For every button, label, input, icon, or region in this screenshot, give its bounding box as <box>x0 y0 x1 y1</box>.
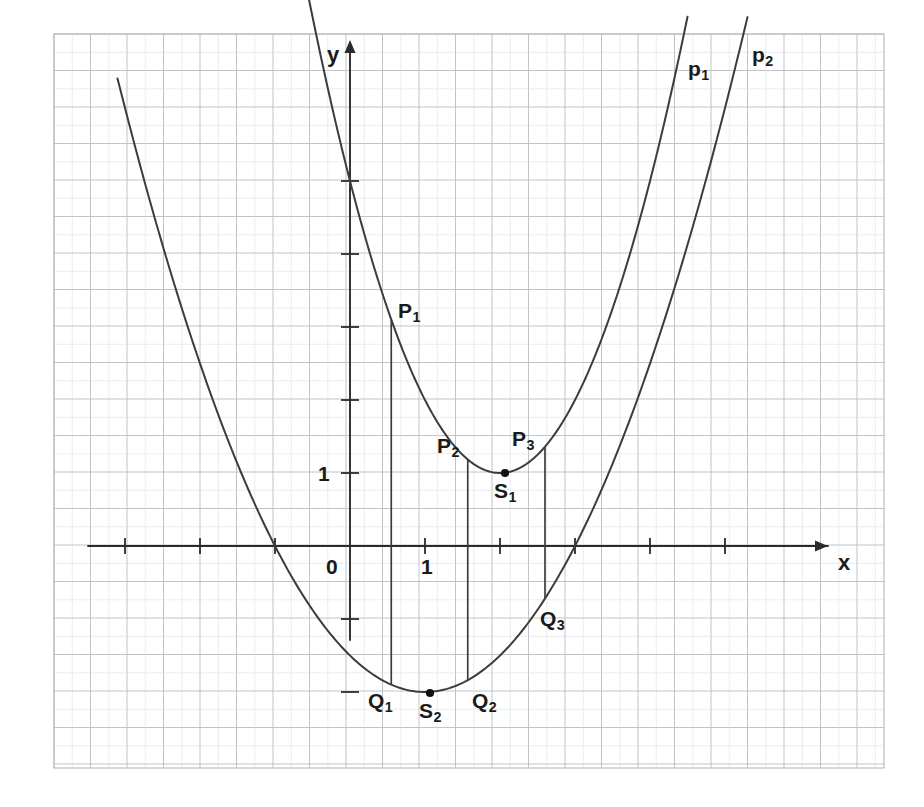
point-label-S2: S2 <box>419 700 441 724</box>
point-label-subscript: 3 <box>526 437 534 453</box>
vertex-dot-S2 <box>426 689 434 697</box>
origin-tick-label: 0 <box>326 556 338 577</box>
point-label-base: Q <box>368 689 384 712</box>
point-label-base: Q <box>540 607 556 630</box>
parabola-plot <box>0 0 924 807</box>
curve-label-base: p <box>752 43 765 66</box>
point-label-subscript: 1 <box>508 489 516 505</box>
point-label-base: Q <box>472 689 488 712</box>
point-label-subscript: 3 <box>556 617 564 633</box>
curves-layer <box>118 0 748 692</box>
y-tick-label-1: 1 <box>318 463 330 484</box>
point-label-subscript: 1 <box>384 699 392 715</box>
curve-label-subscript: 1 <box>701 67 709 83</box>
curve-label-p1: p1 <box>688 58 709 82</box>
curve-label-p2: p2 <box>752 44 773 68</box>
point-label-subscript: 2 <box>433 709 441 725</box>
point-label-subscript: 2 <box>451 444 459 460</box>
figure-canvas: y x 0 1 1 p1p2P1P2P3S1Q1Q2S2Q3 <box>0 0 924 807</box>
point-label-Q3: Q3 <box>540 608 565 632</box>
x-axis-label: x <box>838 552 850 574</box>
point-label-base: P <box>437 434 451 457</box>
point-label-base: S <box>419 699 433 722</box>
point-label-subscript: 1 <box>412 309 420 325</box>
y-axis-label: y <box>327 44 339 66</box>
vertex-dot-S1 <box>501 469 509 477</box>
point-label-base: P <box>512 427 526 450</box>
point-label-subscript: 2 <box>488 699 496 715</box>
point-label-Q2: Q2 <box>472 690 497 714</box>
point-label-P3: P3 <box>512 428 534 452</box>
curve-label-base: p <box>688 57 701 80</box>
curve-label-subscript: 2 <box>765 53 773 69</box>
curve-p2 <box>118 17 748 692</box>
point-label-P2: P2 <box>437 435 459 459</box>
point-label-Q1: Q1 <box>368 690 393 714</box>
x-tick-label-1: 1 <box>421 556 433 577</box>
point-label-P1: P1 <box>398 300 420 324</box>
point-label-S1: S1 <box>494 480 516 504</box>
point-label-base: P <box>398 299 412 322</box>
grid-layer <box>54 34 884 768</box>
point-label-base: S <box>494 479 508 502</box>
